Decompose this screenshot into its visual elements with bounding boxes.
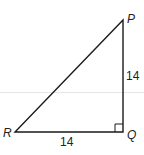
vertex-label-q: Q	[127, 129, 136, 141]
side-label-rq: 14	[60, 136, 73, 148]
vertex-label-p: P	[127, 13, 135, 25]
right-angle-marker	[115, 124, 123, 132]
side-label-pq: 14	[126, 70, 139, 82]
triangle-pqr	[15, 20, 123, 132]
vertex-label-r: R	[3, 127, 12, 139]
triangle-figure	[0, 0, 144, 155]
